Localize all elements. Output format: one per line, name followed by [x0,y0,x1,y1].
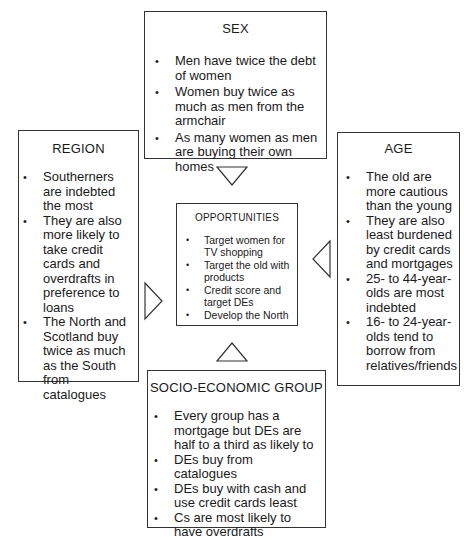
list-item: Target the old with products [204,259,293,283]
list-item: Women buy twice as much as men from the … [175,85,320,129]
socio-economic-box: SOCIO-ECONOMIC GROUP Every group has a m… [147,370,326,528]
region-box: REGION Southerners are indebted the most… [18,130,139,382]
age-list: The old are more cautious than the young… [366,170,455,373]
socio-economic-title: SOCIO-ECONOMIC GROUP [148,380,325,395]
socio-economic-list: Every group has a mortgage but DEs are h… [174,409,319,540]
list-item: DEs buy from catalogues [174,453,319,482]
down-arrow-icon [216,166,248,186]
list-item: 25- to 44-year-olds are most indebted [366,272,455,316]
right-arrow-icon [144,282,164,320]
list-item: Credit score and target DEs [204,284,293,308]
region-list: Southerners are indebted the most They a… [43,170,134,402]
list-item: Target women for TV shopping [204,234,293,258]
list-item: Every group has a mortgage but DEs are h… [174,409,319,453]
opportunities-box: OPPORTUNITIES Target women for TV shoppi… [176,203,298,326]
up-arrow-icon [216,342,248,362]
list-item: Develop the North [204,309,293,321]
region-title: REGION [19,141,138,156]
opportunities-list: Target women for TV shopping Target the … [204,234,293,321]
opportunities-title: OPPORTUNITIES [177,212,297,223]
left-arrow-icon [312,240,332,278]
sex-title: SEX [145,21,326,36]
list-item: 16- to 24-year-olds tend to borrow from … [366,315,455,373]
list-item: They are also more likely to take credit… [43,214,134,316]
age-box: AGE The old are more cautious than the y… [337,132,460,386]
list-item: The old are more cautious than the young [366,170,455,214]
list-item: Southerners are indebted the most [43,170,134,214]
sex-box: SEX Men have twice the debt of women Wom… [144,11,327,159]
list-item: Men have twice the debt of women [175,54,320,83]
list-item: The North and Scotland buy twice as much… [43,315,134,402]
list-item: DEs buy with cash and use credit cards l… [174,482,319,511]
list-item: Cs are most likely to have overdrafts [174,511,319,540]
list-item: They are also least burdened by credit c… [366,214,455,272]
sex-list: Men have twice the debt of women Women b… [175,54,320,174]
age-title: AGE [338,141,459,156]
